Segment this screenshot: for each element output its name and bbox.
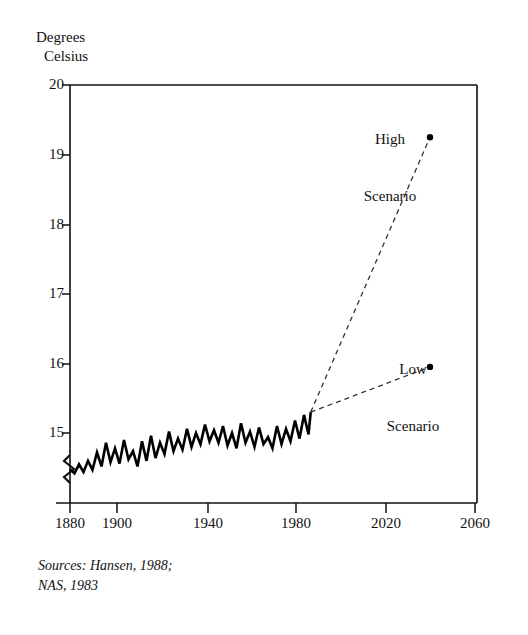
x-axis-ticks xyxy=(70,503,475,513)
y-axis-break-symbol xyxy=(64,455,74,483)
y-axis-ticks xyxy=(62,85,70,433)
observed-temperature-line xyxy=(70,412,311,473)
low-scenario-endpoint-dot xyxy=(427,364,433,370)
high-scenario-projection-line xyxy=(311,137,430,412)
temperature-chart: Degrees Celsius 20 19 18 17 16 15 1880 1… xyxy=(0,0,528,635)
high-scenario-endpoint-dot xyxy=(427,134,433,140)
plot-canvas xyxy=(0,0,528,635)
low-scenario-projection-line xyxy=(311,367,430,412)
